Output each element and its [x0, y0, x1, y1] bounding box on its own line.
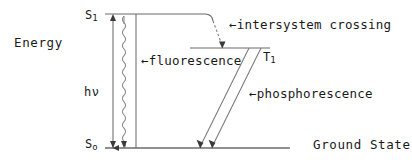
absorption-label-hv: hν	[84, 86, 99, 98]
state-label-s1-subscript: 1	[92, 13, 97, 23]
intersystem-crossing-label-text: intersystem crossing	[237, 17, 392, 32]
absorption-arrowhead-down-1	[110, 141, 116, 148]
left-arrow-icon: ←	[141, 53, 149, 68]
jablonski-diagram: Energy S1 So T1 hν ←fluorescence ←inters…	[0, 0, 412, 163]
energy-level-s1-line	[105, 14, 213, 21]
fluorescence-label: ←fluorescence	[141, 55, 241, 68]
ground-state-label: Ground State	[313, 139, 411, 152]
phosphorescence-label-text: phosphorescence	[257, 86, 373, 101]
left-arrow-icon: ←	[249, 86, 257, 101]
state-label-t1: T1	[263, 51, 276, 63]
fluorescence-label-text: fluorescence	[149, 53, 242, 68]
absorption-arrowhead-up	[110, 14, 116, 21]
intersystem-crossing-arrow	[213, 21, 222, 45]
state-label-s0-subscript: o	[92, 142, 97, 152]
state-label-s1: S1	[85, 9, 98, 21]
intersystem-crossing-label: ←intersystem crossing	[229, 19, 391, 32]
absorption-arrowhead-down-2	[121, 141, 127, 148]
left-arrow-icon: ←	[229, 17, 237, 32]
state-label-s0: So	[85, 138, 98, 150]
energy-axis-label: Energy	[14, 37, 63, 50]
phosphorescence-label: ←phosphorescence	[249, 88, 373, 101]
absorption-wavy-arrow	[122, 16, 125, 148]
state-label-t1-subscript: 1	[270, 55, 275, 65]
